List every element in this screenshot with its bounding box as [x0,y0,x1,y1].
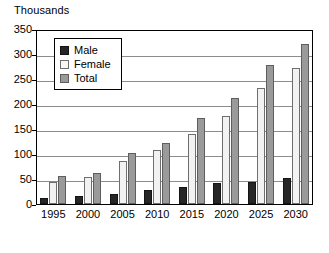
y-tick-label-0: 0 [0,199,32,210]
bar-female-2000 [84,177,92,204]
bar-total-1995 [58,176,66,205]
bar-chart: Thousands 350300250200150100500 19952000… [0,0,329,253]
bar-total-2010 [162,143,170,204]
bar-female-1995 [49,182,57,205]
bar-group-2005 [110,153,137,205]
y-tick-label-350: 350 [0,24,32,35]
bar-group-1995 [40,176,67,205]
x-axis-tick-labels: 19952000200520102015202020252030 [36,208,313,228]
y-axis-tick-labels: 350300250200150100500 [0,0,36,253]
bar-female-2005 [119,161,127,204]
bar-female-2010 [153,150,161,204]
y-tick-label-250: 250 [0,74,32,85]
bar-total-2000 [93,173,101,204]
bar-female-2015 [188,134,196,204]
bar-male-2025 [248,182,256,205]
bar-male-2030 [283,178,291,204]
bar-total-2005 [128,153,136,205]
legend-swatch-female-icon [60,60,69,69]
legend-label-female: Female [74,59,111,70]
bar-female-2030 [292,68,300,204]
legend-swatch-male-icon [60,46,69,55]
legend-item-male: Male [60,43,111,57]
bar-group-2010 [144,143,171,204]
y-tick-mark-0 [32,205,36,206]
bar-male-2020 [213,183,221,205]
bar-total-2020 [231,98,239,204]
x-tick-label-2030: 2030 [276,208,316,220]
y-tick-label-50: 50 [0,174,32,185]
bar-male-2005 [110,194,118,205]
bar-male-2010 [144,190,152,204]
y-tick-label-200: 200 [0,99,32,110]
bar-group-2030 [283,44,310,204]
bar-male-2000 [75,196,83,205]
y-tick-label-150: 150 [0,124,32,135]
legend-item-female: Female [60,57,111,71]
bar-male-1995 [40,198,48,204]
bar-male-2015 [179,187,187,204]
bar-group-2020 [213,98,240,204]
y-tick-label-300: 300 [0,49,32,60]
legend-swatch-total-icon [60,74,69,83]
legend-item-total: Total [60,71,111,85]
bar-total-2015 [197,118,205,204]
chart-legend: Male Female Total [54,38,122,90]
bar-total-2025 [266,65,274,204]
bar-group-2025 [248,65,275,204]
bar-group-2015 [179,118,206,204]
bar-female-2025 [257,88,265,204]
bar-total-2030 [301,44,309,204]
legend-label-male: Male [74,45,98,56]
bar-group-2000 [75,173,102,204]
y-tick-label-100: 100 [0,149,32,160]
legend-label-total: Total [74,73,97,84]
bar-female-2020 [222,116,230,205]
